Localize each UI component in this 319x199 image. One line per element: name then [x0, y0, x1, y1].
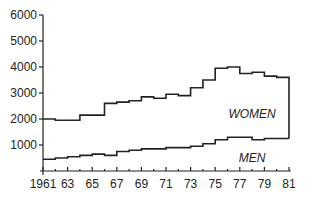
series-labels: WOMENMEN [228, 107, 276, 165]
label-men: MEN [239, 151, 266, 165]
label-women: WOMEN [228, 107, 276, 121]
x-tick-label: 81 [282, 177, 296, 191]
y-tick-label: 2000 [10, 112, 37, 126]
y-tick-label: 5000 [10, 34, 37, 48]
y-tick-label: 3000 [10, 86, 37, 100]
x-tick-label: 71 [159, 177, 173, 191]
series-women-line [43, 67, 289, 139]
step-chart: 100020003000400050006000 196163656769717… [0, 0, 319, 199]
x-tick-label: 79 [258, 177, 272, 191]
y-tick-label: 4000 [10, 60, 37, 74]
x-tick-label: 67 [110, 177, 124, 191]
x-tick-label: 63 [61, 177, 75, 191]
x-axis: 196163656769717375777981 [30, 167, 296, 191]
x-tick-label: 65 [86, 177, 100, 191]
x-tick-label: 77 [233, 177, 247, 191]
x-tick-label: 69 [135, 177, 149, 191]
x-tick-label: 75 [209, 177, 223, 191]
y-tick-label: 1000 [10, 138, 37, 152]
y-axis: 100020003000400050006000 [10, 8, 43, 175]
x-tick-label: 1961 [30, 177, 57, 191]
y-tick-label: 6000 [10, 8, 37, 22]
x-tick-label: 73 [184, 177, 198, 191]
